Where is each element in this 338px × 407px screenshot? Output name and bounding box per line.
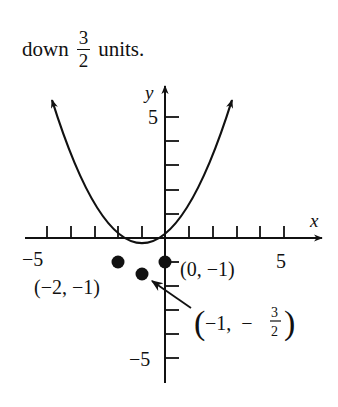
svg-text:−1, −: −1, − bbox=[205, 312, 253, 334]
point-neg2-neg1 bbox=[112, 256, 125, 269]
svg-text:2: 2 bbox=[271, 324, 278, 339]
x-tick-label-5: 5 bbox=[276, 250, 286, 272]
svg-text:3: 3 bbox=[271, 305, 278, 320]
parabola-graph: y x 5 −5 −5 5 (−2, −1) (0, −1) ( −1, − 3… bbox=[0, 0, 338, 407]
point-label-0-neg1: (0, −1) bbox=[180, 258, 235, 281]
x-tick-label-neg5: −5 bbox=[22, 248, 43, 270]
point-0-neg1 bbox=[159, 256, 172, 269]
svg-text:(: ( bbox=[194, 304, 205, 342]
point-label-neg2-neg1: (−2, −1) bbox=[34, 276, 100, 299]
x-axis-label: x bbox=[309, 210, 319, 231]
y-axis-label: y bbox=[143, 82, 154, 103]
vertex-label: ( −1, − 3 2 ) bbox=[194, 304, 295, 342]
svg-text:): ) bbox=[284, 304, 295, 342]
point-vertex bbox=[136, 268, 149, 281]
y-tick-label-neg5: −5 bbox=[129, 348, 150, 370]
y-tick-label-5: 5 bbox=[148, 106, 158, 128]
vertex-pointer-arrow bbox=[152, 281, 191, 308]
parabola-curve bbox=[52, 100, 232, 243]
